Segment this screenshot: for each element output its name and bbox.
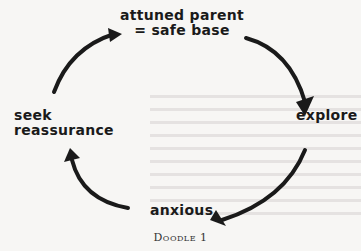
node-seek-reassurance: seek reassurance <box>14 108 114 138</box>
arrow-right-to-bottom <box>222 150 305 220</box>
arrow-left-to-top <box>54 34 114 92</box>
node-label-line2: reassurance <box>14 123 114 138</box>
node-anxious: anxious <box>150 203 213 218</box>
node-label-line2: = safe base <box>120 23 244 38</box>
arrow-top-to-right <box>246 38 305 102</box>
node-label-line1: seek <box>14 108 114 123</box>
node-label-line1: attuned parent <box>120 8 244 23</box>
node-explore: explore <box>296 108 357 123</box>
arrow-bottom-to-left <box>72 160 128 208</box>
figure-caption: Doodle 1 <box>0 231 361 244</box>
arrowhead-left <box>64 148 80 162</box>
node-attuned-parent: attuned parent = safe base <box>120 8 244 38</box>
